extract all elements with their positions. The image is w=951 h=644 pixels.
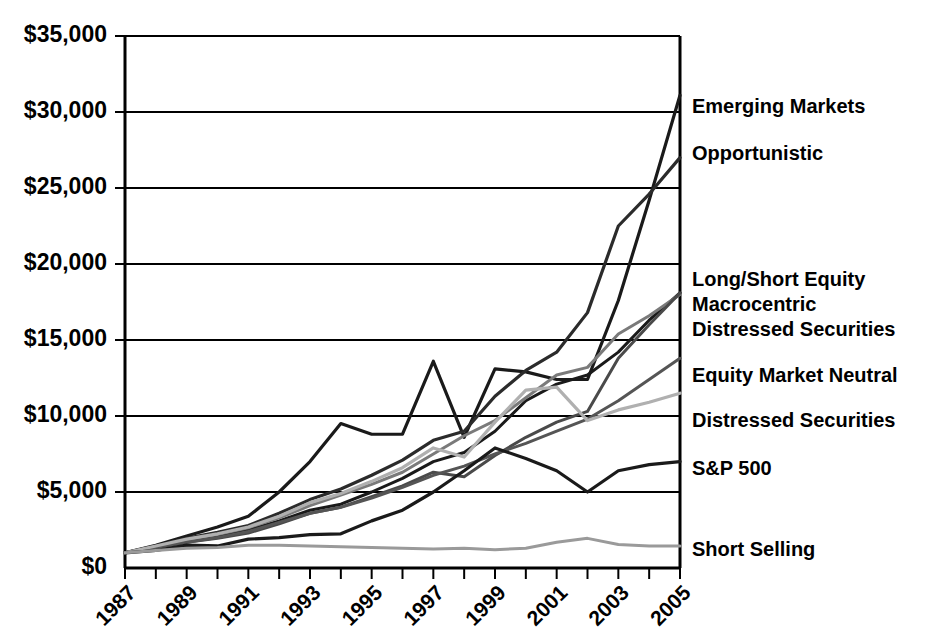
y-axis-tick-label: $10,000 [24,401,107,427]
line-chart-figure: $35,000$30,000$25,000$20,000$15,000$10,0… [0,0,951,644]
y-tick-labels: $35,000$30,000$25,000$20,000$15,000$10,0… [24,21,107,579]
x-axis-tick-label: 1995 [337,580,387,630]
x-axis-tick-label: 2005 [646,580,696,630]
y-axis-tick-label: $5,000 [37,477,107,503]
legend-label-0: Emerging Markets [692,95,865,117]
y-axis-tick-label: $30,000 [24,97,107,123]
legend-label-4: Distressed Securities [692,318,895,340]
y-axis-tick-label: $0 [81,553,107,579]
x-axis-tick-label: 1987 [91,581,140,630]
y-axis-tick-label: $35,000 [24,21,107,47]
legend-label-8: Short Selling [692,538,815,560]
legend-label-5: Equity Market Neutral [692,364,898,386]
series-line-3 [125,294,680,552]
legend-label-6: Distressed Securities [692,409,895,431]
legend: Emerging MarketsOpportunisticLong/Short … [692,95,898,560]
y-axis-tick-label: $25,000 [24,173,107,199]
series-line-4 [125,293,680,553]
x-axis-tick-label: 1989 [152,581,201,630]
series-line-5 [125,358,680,553]
x-tick-labels: 1987198919911993199519971999200120032005 [91,580,696,630]
x-axis-tick-label: 1993 [276,581,325,630]
chart-canvas: $35,000$30,000$25,000$20,000$15,000$10,0… [0,0,951,644]
x-axis-tick-label: 1999 [461,581,510,630]
y-axis-tick-label: $15,000 [24,325,107,351]
legend-label-7: S&P 500 [692,457,772,479]
x-axis-tick-label: 2003 [584,581,633,630]
legend-label-2: Long/Short Equity [692,268,866,290]
x-tick-marks [125,568,680,579]
x-axis-tick-label: 2001 [522,580,572,630]
data-series-group [125,95,680,553]
legend-label-3: Macrocentric [692,293,817,315]
x-axis-tick-label: 1997 [399,581,448,630]
y-axis-tick-label: $20,000 [24,249,107,275]
x-axis-tick-label: 1991 [214,580,264,630]
series-line-2 [125,293,680,553]
legend-label-1: Opportunistic [692,142,823,164]
grid-lines [115,36,680,492]
